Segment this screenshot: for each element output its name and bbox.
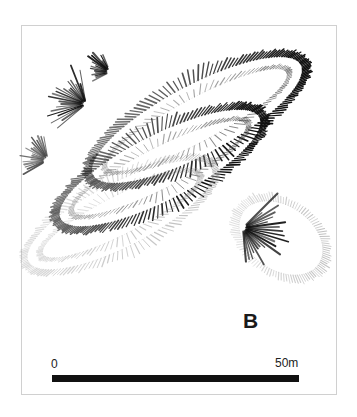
scale-max-label: 50m [275,357,298,369]
archaeological-plan-figure: B 0 50m [0,0,357,417]
site-label: B [243,310,258,331]
scale-bar [52,375,299,382]
scale-min-label: 0 [51,358,58,370]
earthwork-plan-drawing [0,0,357,417]
